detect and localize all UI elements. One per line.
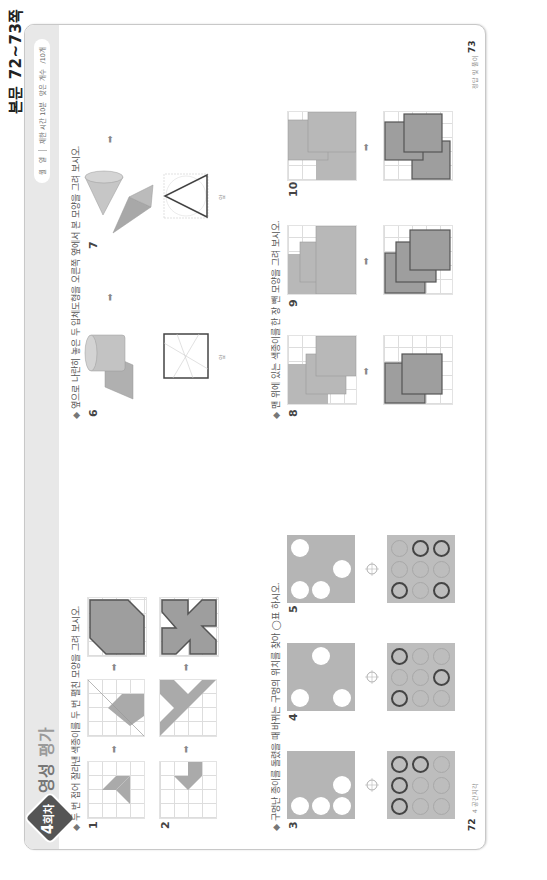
correct-count-label: 맞은 개수	[37, 69, 47, 95]
hole-option[interactable]	[433, 648, 450, 665]
unfolded-once-grid	[159, 679, 217, 737]
problem-number: 7	[87, 241, 100, 249]
cylinder-prism-solid-icon	[83, 315, 153, 405]
arrow-down-icon: ➡	[361, 367, 371, 375]
hole-option[interactable]	[412, 777, 429, 794]
hole-option-selected[interactable]	[391, 582, 408, 599]
hole-option[interactable]	[391, 669, 408, 686]
hole-option-selected[interactable]	[433, 669, 450, 686]
footer-chapter-right: 정답 및 풀이	[470, 55, 479, 89]
diamond-bullet-icon: ◆	[271, 824, 281, 831]
answer-hole-grid	[387, 751, 455, 819]
answer-grid	[159, 597, 219, 657]
problem-number: 4	[287, 713, 300, 721]
hole-option[interactable]	[412, 669, 429, 686]
punched-paper	[287, 643, 355, 711]
stack-problem-grid	[287, 111, 357, 181]
reference-label: 본문 72~73쪽	[4, 8, 25, 114]
stacked-papers-icon	[288, 336, 356, 404]
time-limit: 제한 시간 10분	[37, 102, 47, 144]
hole	[291, 689, 309, 707]
hole	[291, 797, 309, 815]
problem-number: 5	[287, 605, 300, 613]
hole-option[interactable]	[391, 540, 408, 557]
hole	[291, 581, 309, 599]
hole	[312, 647, 330, 665]
total-count: /10개	[37, 47, 47, 63]
hole-option[interactable]	[412, 582, 429, 599]
hole	[312, 797, 330, 815]
hole	[333, 776, 351, 794]
folded-shape-icon	[88, 762, 144, 818]
stack-answer-grid	[383, 335, 453, 405]
front-label: 앞	[217, 354, 226, 360]
hole-option[interactable]	[433, 798, 450, 815]
front-label: 앞	[217, 194, 226, 200]
page-title: 영성 평가	[33, 727, 57, 793]
hole	[333, 689, 351, 707]
hole-option[interactable]	[412, 561, 429, 578]
stacked-answer-icon	[384, 112, 452, 180]
hole-option[interactable]	[412, 648, 429, 665]
hole	[333, 560, 351, 578]
rotate-half-icon	[365, 670, 379, 684]
cone-pyramid-solid-icon	[83, 157, 157, 237]
stack-problem-grid	[287, 335, 357, 405]
unfolded-once-shape-icon	[88, 680, 144, 736]
side-view-triangle-answer-icon	[163, 173, 209, 219]
hole-option-selected[interactable]	[391, 756, 408, 773]
hole-option[interactable]	[412, 798, 429, 815]
divider	[38, 150, 47, 151]
arrow-icon: ➡	[105, 293, 115, 301]
hole-option[interactable]	[412, 690, 429, 707]
hole-option[interactable]	[391, 561, 408, 578]
day-field[interactable]: 일	[37, 157, 47, 163]
stack-answer-grid	[383, 111, 453, 181]
section-prompt-fold: ◆두 번 접어 잘라낸 색종이를 두 번 펼친 모양을 그려 보시오.	[69, 606, 82, 831]
header-bar: 4회차 영성 평가 월 일 제한 시간 10분 맞은 개수 /10개	[25, 25, 59, 849]
hole-option-selected[interactable]	[391, 777, 408, 794]
rotate-three-quarter-icon	[365, 562, 379, 576]
side-view-square-answer-icon	[163, 333, 209, 379]
arrow-icon: ➡	[105, 135, 115, 143]
hole-option-selected[interactable]	[391, 648, 408, 665]
hole-option[interactable]	[433, 777, 450, 794]
rotated-page: 본문 72~73쪽 4회차 영성 평가 월 일 제한 시간 10분 맞은 개수 …	[0, 0, 547, 880]
answer-shape-octagon-icon	[88, 598, 146, 656]
footer-chapter-left: 4 공간지각	[470, 783, 479, 813]
hole-option-selected[interactable]	[391, 798, 408, 815]
hole	[333, 797, 351, 815]
stack-answer-grid	[383, 225, 453, 295]
stacked-answer-icon	[384, 336, 452, 404]
hole-option[interactable]	[433, 561, 450, 578]
hole-option-selected[interactable]	[391, 690, 408, 707]
problem-grid	[87, 761, 145, 819]
hole	[312, 581, 330, 599]
arrow-right-icon: ➡	[109, 663, 119, 671]
problem-number: 1	[87, 821, 100, 829]
section-prompt-holes: ◆구멍난 종이를 돌렸을 때 바뀌는 구멍의 위치를 찾아 ◯표 하시오.	[269, 582, 282, 831]
hole-option[interactable]	[433, 690, 450, 707]
answer-grid	[87, 597, 147, 657]
score-pill: 월 일 제한 시간 10분 맞은 개수 /10개	[34, 39, 50, 183]
hole-option-selected[interactable]	[433, 582, 450, 599]
hole	[291, 539, 309, 557]
arrow-right-icon: ➡	[109, 745, 119, 753]
hole-option[interactable]	[433, 756, 450, 773]
problem-grid	[159, 761, 217, 819]
diamond-bullet-icon: ◆	[71, 412, 81, 419]
punched-paper	[287, 535, 355, 603]
hole-option-selected[interactable]	[412, 540, 429, 557]
folded-shape-icon	[160, 762, 216, 818]
problem-number: 2	[159, 821, 172, 829]
month-field[interactable]: 월	[37, 169, 47, 175]
answer-hole-grid	[387, 535, 455, 603]
problem-number: 8	[287, 409, 300, 417]
diamond-bullet-icon: ◆	[271, 412, 281, 419]
hole-option-selected[interactable]	[433, 540, 450, 557]
page-number-left: 72	[467, 818, 477, 831]
problem-number: 3	[287, 821, 300, 829]
hole-option-selected[interactable]	[412, 756, 429, 773]
stacked-papers-icon	[288, 226, 356, 294]
unfolded-once-grid	[87, 679, 145, 737]
